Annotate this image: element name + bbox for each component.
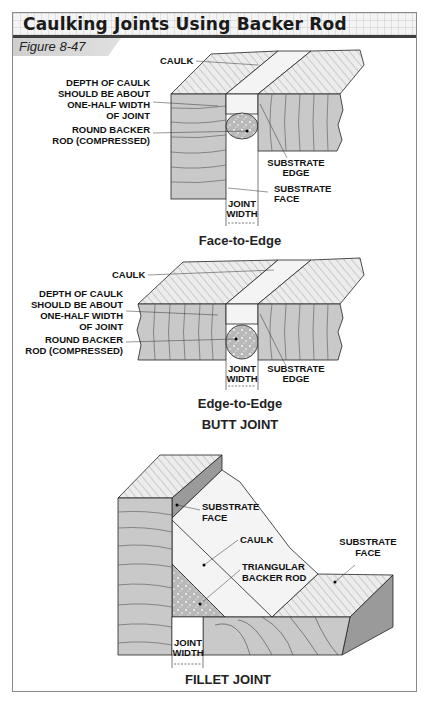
caption-fillet-joint: FILLET JOINT — [185, 672, 271, 687]
label-joint-width-2-2: WIDTH — [226, 373, 257, 384]
label-rod-2-2: ROD (COMPRESSED) — [25, 345, 123, 356]
label-depth-4: OF JOINT — [106, 110, 150, 121]
edge-to-edge-panel: CAULK DEPTH OF CAULK SHOULD BE ABOUT ONE… — [25, 258, 364, 432]
label-substrate-edge-2: EDGE — [283, 167, 310, 178]
label-triangular-rod-1: TRIANGULAR — [242, 561, 305, 572]
label-depth-2-2: SHOULD BE ABOUT — [31, 299, 123, 310]
caulking-diagram: CAULK DEPTH OF CAULK SHOULD BE ABOUT ONE… — [0, 0, 429, 704]
label-depth-3: ONE-HALF WIDTH — [67, 99, 150, 110]
label-depth-1: DEPTH OF CAULK — [66, 77, 150, 88]
label-fillet-substrate-face-1: SUBSTRATE — [202, 501, 259, 512]
label-depth-3-2: ONE-HALF WIDTH — [40, 310, 123, 321]
label-substrate-edge-2-2: EDGE — [283, 373, 310, 384]
label-triangular-rod-2: BACKER ROD — [242, 572, 307, 583]
label-depth-2: SHOULD BE ABOUT — [58, 88, 150, 99]
label-fillet-substrate-face-b-2: FACE — [355, 547, 380, 558]
label-joint-width-2: WIDTH — [226, 208, 257, 219]
label-fillet-caulk: CAULK — [240, 534, 273, 545]
label-rod-1: ROUND BACKER — [72, 124, 150, 135]
label-caulk-2: CAULK — [112, 269, 145, 280]
caption-butt-joint: BUTT JOINT — [202, 417, 279, 432]
label-caulk: CAULK — [160, 55, 193, 66]
fillet-joint-panel: SUBSTRATE FACE CAULK TRIANGULAR BACKER R… — [118, 455, 397, 687]
label-substrate-face-2: FACE — [274, 193, 299, 204]
label-depth-4-2: OF JOINT — [79, 321, 123, 332]
label-fillet-substrate-face-b-1: SUBSTRATE — [339, 536, 396, 547]
label-rod-1-2: ROUND BACKER — [45, 334, 123, 345]
label-depth-1-2: DEPTH OF CAULK — [39, 288, 123, 299]
label-fillet-joint-width-2: WIDTH — [172, 647, 203, 658]
label-fillet-substrate-face-2: FACE — [202, 512, 227, 523]
caption-face-to-edge: Face-to-Edge — [199, 233, 281, 248]
caption-edge-to-edge: Edge-to-Edge — [198, 396, 283, 411]
label-rod-2: ROD (COMPRESSED) — [52, 135, 150, 146]
face-to-edge-panel: CAULK DEPTH OF CAULK SHOULD BE ABOUT ONE… — [52, 50, 364, 248]
